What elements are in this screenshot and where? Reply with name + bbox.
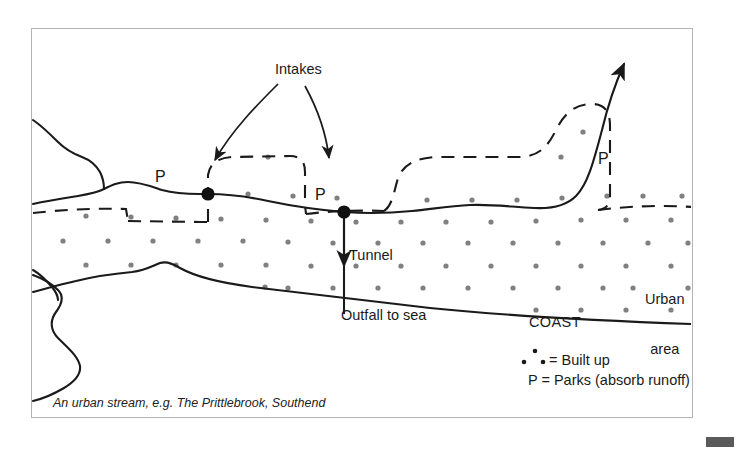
park-marker-left: P	[155, 168, 166, 186]
intakes-arrow-right	[305, 86, 329, 158]
figure-caption: An urban stream, e.g. The Prittlebrook, …	[53, 396, 325, 410]
park-marker-right: P	[598, 150, 609, 168]
legend-built-up: = Built up	[549, 352, 610, 369]
page-corner-mark	[706, 437, 734, 447]
intake-marker-1[interactable]	[201, 187, 214, 200]
legend-parks: P = Parks (absorb runoff)	[528, 372, 690, 389]
park-marker-middle: P	[315, 186, 326, 204]
figure-page: Intakes P P P Tunnel Outfall to sea COAS…	[0, 0, 736, 451]
urban-area-label-line2: area	[645, 341, 685, 358]
intake-marker-2[interactable]	[337, 205, 350, 218]
tunnel-label: Tunnel	[349, 247, 393, 264]
urban-area-label-line1: Urban	[645, 291, 685, 308]
stream-channel	[33, 64, 624, 213]
intakes-label: Intakes	[275, 61, 322, 78]
outfall-label: Outfall to sea	[341, 307, 426, 324]
legend-dot-sample	[522, 349, 546, 365]
tributary-upper-left	[33, 120, 104, 189]
tributary-lower-left	[33, 270, 58, 300]
coast-label: COAST	[529, 314, 581, 331]
intakes-arrow-left	[215, 84, 278, 160]
built-up-boundary	[33, 104, 693, 222]
